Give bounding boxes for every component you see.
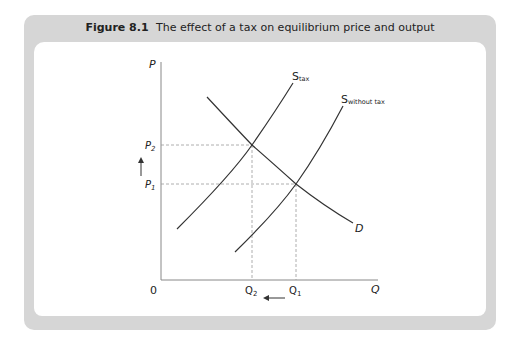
supply-without-tax-label-sub: without tax xyxy=(348,98,385,106)
supply-without-tax-label-main: S xyxy=(341,93,348,106)
supply-with-tax-label: Stax xyxy=(292,70,310,83)
p1-label: P1 xyxy=(145,179,156,192)
p2-label-sub: 2 xyxy=(151,145,156,153)
demand-label: D xyxy=(355,222,363,235)
q2-label: Q2 xyxy=(245,285,257,298)
q1-label-main: Q xyxy=(289,285,297,296)
q2-label-main: Q xyxy=(245,285,253,296)
x-axis-label: Q xyxy=(371,283,380,296)
origin-label: 0 xyxy=(150,284,157,297)
supply-without-tax-curve xyxy=(235,106,343,252)
p1-label-sub: 1 xyxy=(151,184,155,192)
p2-label: P2 xyxy=(145,140,156,153)
q1-label: Q1 xyxy=(289,285,301,298)
y-axis-label: P xyxy=(149,58,156,71)
supply-with-tax-label-main: S xyxy=(292,70,299,83)
supply-with-tax-curve xyxy=(177,83,293,229)
supply-demand-diagram: P Q 0 P2 P1 Q2 Q1 Stax Swithout tax D xyxy=(0,0,520,344)
q1-label-sub: 1 xyxy=(297,290,301,298)
supply-with-tax-label-sub: tax xyxy=(299,75,310,83)
supply-without-tax-label: Swithout tax xyxy=(341,93,385,106)
q2-label-sub: 2 xyxy=(253,290,257,298)
